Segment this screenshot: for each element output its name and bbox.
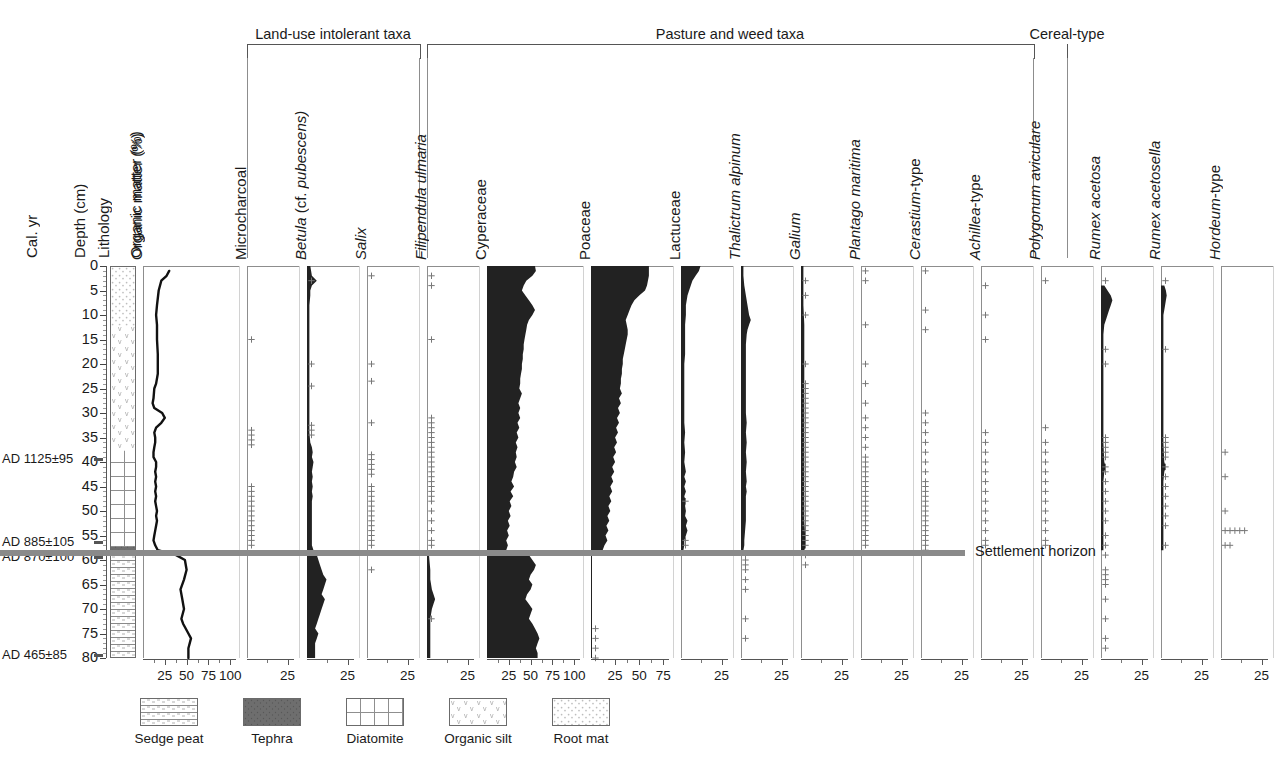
depth-tick <box>103 531 106 532</box>
depth-tick-label: 75 <box>60 625 98 641</box>
depth-tick <box>103 442 106 443</box>
legend-label-tephra: Tephra <box>251 731 292 746</box>
legend-swatch-sedge-peat <box>140 698 198 726</box>
depth-tick <box>103 384 106 385</box>
depth-tick <box>103 472 106 473</box>
taxon-name-0: Organic matter (%) <box>128 133 145 260</box>
taxon-xtick-label: 75 <box>656 668 671 683</box>
lithology-unit-root-mat <box>111 267 136 326</box>
taxon-xtick-label: 25 <box>714 668 729 683</box>
taxon-baseline-16 <box>1221 659 1268 660</box>
taxon-xtick-label: 25 <box>460 668 475 683</box>
depth-tick <box>103 374 106 375</box>
taxon-xtick <box>165 660 166 665</box>
taxon-name-8: Thalictrum alpinum <box>726 133 743 260</box>
depth-tick-label: 5 <box>60 282 98 298</box>
radiocarbon-date: AD 885±105 <box>2 534 74 549</box>
depth-tick <box>100 634 106 635</box>
taxon-xtick <box>509 660 510 665</box>
taxon-xtick-minor <box>1001 660 1002 663</box>
depth-tick <box>103 638 106 639</box>
taxon-xtick-label: 25 <box>340 668 355 683</box>
taxon-curve-9 <box>801 266 855 660</box>
depth-tick <box>100 560 106 561</box>
depth-tick <box>103 295 106 296</box>
taxon-curve-8 <box>741 266 795 660</box>
taxon-xtick-minor <box>520 660 521 663</box>
depth-tick-label: 45 <box>60 478 98 494</box>
taxon-xtick-label: 25 <box>501 668 516 683</box>
depth-tick <box>103 379 106 380</box>
depth-tick <box>100 389 106 390</box>
depth-tick <box>103 310 106 311</box>
taxon-xtick-label: 50 <box>632 668 647 683</box>
taxon-xtick-label: 25 <box>280 668 295 683</box>
taxon-xtick-label: 25 <box>1014 668 1029 683</box>
taxon-xtick-minor <box>627 660 628 663</box>
depth-tick <box>103 629 106 630</box>
taxon-xtick-label: 100 <box>563 668 586 683</box>
taxon-name-16: Hordeum-type <box>1206 165 1223 260</box>
taxon-xtick-minor <box>176 660 177 663</box>
depth-tick <box>103 344 106 345</box>
taxon-name-2: Betula (cf. pubescens) <box>292 111 309 260</box>
taxon-name-12: Achillea-type <box>966 174 983 260</box>
taxon-curve-0 <box>143 266 241 660</box>
taxon-xtick-label: 25 <box>1134 668 1149 683</box>
taxon-xtick-minor <box>1241 660 1242 663</box>
depth-tick <box>103 369 106 370</box>
taxon-curve-2 <box>307 266 361 660</box>
taxon-xtick-label: 50 <box>179 668 194 683</box>
depth-tick <box>103 506 106 507</box>
depth-tick <box>103 320 106 321</box>
lithology-unit-diatomite <box>111 451 136 547</box>
taxon-curve-4 <box>427 266 481 660</box>
taxon-xtick-minor <box>881 660 882 663</box>
taxon-xtick-label: 25 <box>774 668 789 683</box>
depth-tick <box>103 408 106 409</box>
group-label: Cereal-type <box>1030 26 1105 42</box>
taxon-xtick-label: 25 <box>1254 668 1269 683</box>
taxon-name-10: Plantago maritima <box>846 139 863 260</box>
depth-tick-label: 50 <box>60 502 98 518</box>
taxon-baseline-15 <box>1161 659 1208 660</box>
settlement-horizon-band <box>0 550 965 556</box>
depth-tick <box>103 271 106 272</box>
taxon-xtick-label: 75 <box>545 668 560 683</box>
bracket-leader <box>1067 58 1068 258</box>
taxon-xtick-minor <box>821 660 822 663</box>
depth-tick <box>100 315 106 316</box>
depth-tick <box>103 467 106 468</box>
legend-label-diatomite: Diatomite <box>346 731 403 746</box>
taxon-xtick-minor <box>1181 660 1182 663</box>
depth-tick-label: 35 <box>60 429 98 445</box>
legend-label-organic-silt: Organic silt <box>444 731 512 746</box>
taxon-name-14: Rumex acetosa <box>1086 156 1103 260</box>
depth-tick <box>103 433 106 434</box>
taxon-name-13: Polygonum aviculare <box>1026 121 1043 260</box>
depth-tick <box>103 477 106 478</box>
depth-tick-label: 65 <box>60 576 98 592</box>
depth-tick <box>103 354 106 355</box>
taxon-xtick-label: 100 <box>219 668 242 683</box>
taxon-baseline-11 <box>921 659 968 660</box>
taxon-curve-16 <box>1221 266 1275 660</box>
taxon-baseline-4 <box>427 659 474 660</box>
depth-tick-label: 10 <box>60 306 98 322</box>
taxon-xtick-minor <box>761 660 762 663</box>
depth-tick <box>103 452 106 453</box>
taxon-xtick-minor <box>941 660 942 663</box>
taxon-curve-7 <box>681 266 735 660</box>
taxon-xtick <box>615 660 616 665</box>
depth-tick <box>103 300 106 301</box>
taxon-xtick <box>1202 660 1203 665</box>
group-3 <box>1067 44 1069 58</box>
taxon-name-5: Cyperaceae <box>472 179 489 260</box>
taxon-xtick <box>842 660 843 665</box>
taxon-name-4: Filipendula ulmaria <box>412 134 429 260</box>
taxon-baseline-12 <box>981 659 1028 660</box>
date-tick <box>94 654 103 657</box>
depth-tick <box>103 496 106 497</box>
taxon-xtick <box>230 660 231 665</box>
